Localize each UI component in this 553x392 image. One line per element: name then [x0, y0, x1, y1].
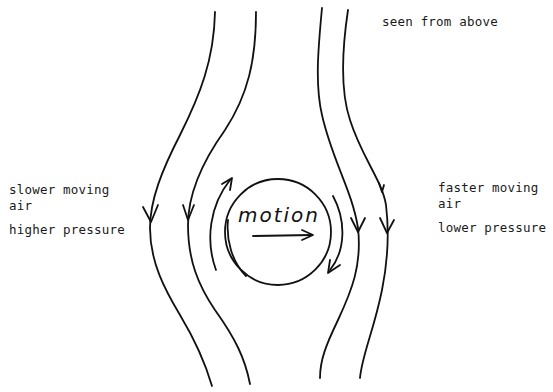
- right-label-pressure: lower pressure: [438, 220, 546, 235]
- streamline-outer-right: [343, 10, 394, 378]
- arrowhead-down-icon: [328, 260, 340, 273]
- left-label-line2: air: [9, 198, 32, 213]
- left-label-line1: slower moving: [9, 182, 109, 197]
- streamline-outer-left: [143, 12, 215, 386]
- right-label-line1: faster moving: [438, 180, 538, 195]
- rotating-ball: [225, 179, 331, 285]
- streamline-inner-right: [318, 8, 365, 378]
- right-label-line2: air: [438, 196, 461, 211]
- motion-indicator: motion: [238, 203, 320, 240]
- spin-arrow-left: [210, 178, 232, 270]
- motion-label: motion: [238, 203, 320, 227]
- view-caption: seen from above: [382, 14, 498, 29]
- magnus-effect-diagram: motion seen from above slower moving air…: [0, 0, 553, 392]
- left-label-pressure: higher pressure: [9, 222, 125, 237]
